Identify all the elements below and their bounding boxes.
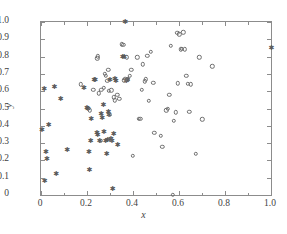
data-point-circle bbox=[88, 108, 92, 112]
data-point-circle bbox=[158, 133, 162, 137]
data-point-circle bbox=[197, 55, 201, 59]
data-point-circle bbox=[189, 82, 193, 86]
data-point-star bbox=[46, 123, 50, 127]
data-point-circle bbox=[193, 152, 197, 156]
data-point-star bbox=[86, 149, 90, 153]
y-axis-tick bbox=[41, 39, 45, 40]
data-point-star bbox=[41, 87, 45, 91]
x-tick-label: 0.6 bbox=[172, 199, 184, 209]
data-point-circle bbox=[184, 73, 188, 77]
x-axis-minor-tick bbox=[248, 22, 249, 25]
data-point-circle bbox=[140, 88, 144, 92]
data-point-circle bbox=[131, 153, 135, 157]
data-point-circle bbox=[170, 193, 174, 197]
x-axis-tick bbox=[179, 191, 180, 195]
data-point-circle bbox=[200, 117, 204, 121]
data-point-star bbox=[122, 20, 126, 24]
y-axis-tick bbox=[267, 91, 271, 92]
x-axis-tick bbox=[133, 22, 134, 26]
data-point-star bbox=[52, 85, 56, 89]
y-axis-tick bbox=[267, 39, 271, 40]
data-point-circle bbox=[172, 119, 176, 123]
x-axis-minor-tick bbox=[248, 193, 249, 196]
y-axis-tick bbox=[267, 109, 271, 110]
data-point-circle bbox=[117, 97, 121, 101]
data-point-circle bbox=[181, 30, 185, 34]
x-tick-label: 0 bbox=[38, 199, 43, 209]
y-axis-tick bbox=[267, 57, 271, 58]
y-axis-tick bbox=[267, 178, 271, 179]
data-point-star bbox=[99, 116, 103, 120]
x-tick-label: 1.0 bbox=[264, 199, 276, 209]
data-point-star bbox=[101, 102, 105, 106]
x-tick-label: 0.4 bbox=[126, 199, 138, 209]
data-point-circle bbox=[109, 88, 113, 92]
x-axis-minor-tick bbox=[156, 193, 157, 196]
data-point-star bbox=[101, 130, 105, 134]
data-point-circle bbox=[135, 55, 139, 59]
plot-frame bbox=[40, 21, 272, 196]
y-tick-label: 0.8 bbox=[0, 51, 9, 61]
data-point-circle bbox=[96, 54, 100, 58]
y-axis-tick bbox=[41, 57, 45, 58]
data-point-circle bbox=[145, 54, 149, 58]
x-axis-minor-tick bbox=[202, 22, 203, 25]
data-point-circle bbox=[166, 107, 170, 111]
data-point-circle bbox=[147, 99, 151, 103]
data-point-star bbox=[88, 139, 92, 143]
data-point-circle bbox=[140, 62, 144, 66]
data-point-circle bbox=[124, 55, 128, 59]
y-tick-label: 0.1 bbox=[0, 172, 9, 182]
data-point-circle bbox=[101, 86, 105, 90]
y-axis-tick bbox=[41, 178, 45, 179]
y-tick-label: 0 bbox=[4, 189, 9, 199]
data-point-star bbox=[53, 172, 57, 176]
data-point-circle bbox=[169, 44, 173, 48]
y-axis-tick bbox=[41, 126, 45, 127]
data-point-circle bbox=[138, 117, 142, 121]
data-point-circle bbox=[151, 80, 155, 84]
x-axis-tick bbox=[225, 191, 226, 195]
x-axis-tick bbox=[41, 22, 42, 26]
data-point-circle bbox=[97, 91, 101, 95]
y-axis-tick bbox=[41, 160, 45, 161]
y-axis-tick bbox=[267, 143, 271, 144]
data-point-circle bbox=[210, 64, 214, 68]
x-axis-minor-tick bbox=[110, 193, 111, 196]
data-point-star bbox=[87, 168, 91, 172]
y-tick-label: 0.2 bbox=[0, 155, 9, 165]
x-axis-minor-tick bbox=[64, 193, 65, 196]
y-axis-tick bbox=[267, 195, 271, 196]
data-point-star bbox=[111, 132, 115, 136]
y-axis-tick bbox=[41, 195, 45, 196]
x-axis-minor-tick bbox=[156, 22, 157, 25]
y-axis-tick bbox=[41, 74, 45, 75]
y-tick-label: 0.4 bbox=[0, 120, 9, 130]
y-tick-label: 1.0 bbox=[0, 16, 9, 26]
x-axis-tick bbox=[225, 22, 226, 26]
y-axis-tick bbox=[267, 74, 271, 75]
data-point-circle bbox=[91, 88, 95, 92]
data-point-circle bbox=[176, 81, 180, 85]
data-point-star bbox=[104, 152, 108, 156]
x-axis-minor-tick bbox=[110, 22, 111, 25]
y-axis-tick bbox=[41, 91, 45, 92]
data-point-star bbox=[64, 147, 68, 151]
data-point-circle bbox=[152, 131, 156, 135]
x-axis-minor-tick bbox=[202, 193, 203, 196]
y-tick-label: 0.5 bbox=[0, 103, 9, 113]
data-point-circle bbox=[187, 109, 191, 113]
data-point-star bbox=[43, 150, 47, 154]
x-tick-label: 0.2 bbox=[80, 199, 92, 209]
y-tick-label: 0.7 bbox=[0, 68, 9, 78]
y-tick-label: 0.6 bbox=[0, 85, 9, 95]
x-axis-tick bbox=[179, 22, 180, 26]
x-axis-minor-tick bbox=[64, 22, 65, 25]
data-point-circle bbox=[183, 47, 187, 51]
data-point-star bbox=[113, 79, 117, 83]
y-axis-tick bbox=[267, 126, 271, 127]
x-axis-tick bbox=[133, 191, 134, 195]
x-axis-tick bbox=[41, 191, 42, 195]
scatter-plot-figure: y 00.10.20.30.40.50.60.70.80.91.0 00.20.… bbox=[0, 0, 287, 234]
data-point-star bbox=[268, 46, 272, 50]
